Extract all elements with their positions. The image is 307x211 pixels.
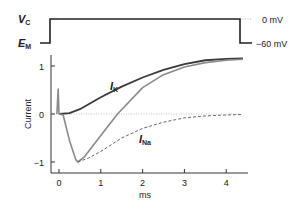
x-tick-label: 4 — [224, 178, 229, 188]
x-tick-label: 1 — [98, 178, 103, 188]
high-voltage-label: 0 mV — [262, 15, 283, 25]
trace-i-k — [59, 58, 243, 114]
x-tick-label: 2 — [140, 178, 145, 188]
voltage-trace — [40, 19, 252, 43]
em-label: EM — [18, 37, 31, 50]
y-tick-label: −1 — [34, 158, 44, 168]
x-axis-label: ms — [139, 190, 151, 200]
voltage-clamp-chart: VC EM 0 mV −60 mV 10−1 01234 Current ms … — [0, 0, 307, 211]
ik-label: IK — [110, 80, 118, 93]
x-tick-label: 3 — [182, 178, 187, 188]
low-voltage-label: −60 mV — [256, 39, 287, 49]
trace-i-na — [78, 114, 243, 162]
vc-label: VC — [18, 13, 30, 26]
y-axis-label: Current — [23, 98, 33, 129]
axes: 10−1 01234 Current ms — [23, 55, 248, 200]
x-tick-label: 0 — [56, 178, 61, 188]
ina-label: INa — [139, 133, 151, 146]
y-tick-label: 1 — [39, 62, 44, 72]
voltage-protocol: VC EM 0 mV −60 mV — [18, 13, 287, 50]
series-group — [57, 58, 243, 162]
y-tick-label: 0 — [39, 110, 44, 120]
